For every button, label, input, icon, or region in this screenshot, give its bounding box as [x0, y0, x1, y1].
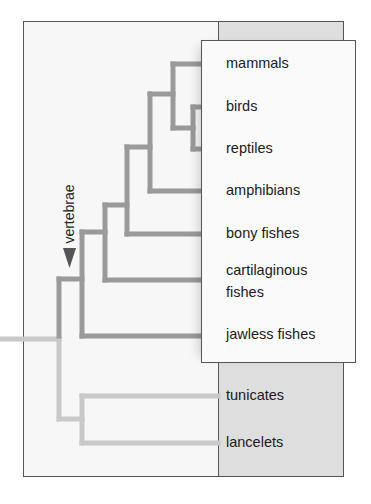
taxon-label-mammals: mammals: [226, 55, 289, 72]
vertebrae-label: vertebrae: [61, 177, 77, 251]
taxon-label-lancelets: lancelets: [226, 434, 283, 451]
invertebrate-branches: [0, 339, 218, 443]
vertebrate-taxa-panel: [201, 40, 356, 363]
taxon-label-cartilaginous-fishes: cartilaginous: [226, 262, 307, 279]
taxon-label-cartilaginous-fishes-line2: fishes: [226, 284, 264, 301]
taxon-label-reptiles: reptiles: [226, 140, 273, 157]
taxon-label-tunicates: tunicates: [226, 387, 284, 404]
taxon-label-bony-fishes: bony fishes: [226, 225, 299, 242]
vertebrate-branches: [59, 64, 203, 336]
taxon-label-birds: birds: [226, 98, 257, 115]
taxon-label-amphibians: amphibians: [226, 182, 300, 199]
vertebrae-arrow-icon: [63, 248, 76, 268]
taxon-label-jawless-fishes: jawless fishes: [226, 326, 315, 343]
